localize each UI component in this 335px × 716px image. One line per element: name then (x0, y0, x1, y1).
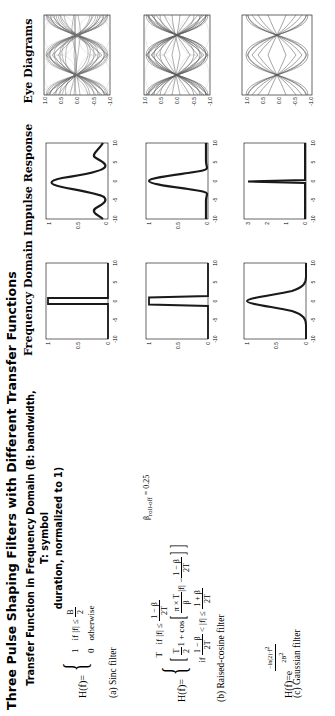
svg-text:10: 10 (212, 260, 218, 266)
figure-subtitle: Transfer Function in Frequency Domain (B… (24, 388, 66, 688)
rc-case2-abs-f-minus: |f| − (176, 578, 186, 592)
svg-text:5: 5 (212, 160, 218, 163)
svg-text:0: 0 (105, 342, 111, 345)
column-header-eye-diagrams: Eye Diagrams (22, 6, 35, 116)
svg-text:-10: -10 (310, 335, 316, 342)
rc-case2-cond-right-num: 1 + β (193, 588, 203, 609)
svg-text:0.0: 0.0 (74, 97, 80, 104)
caption-gaussian-filter: (c) Gaussian filter (292, 629, 302, 698)
svg-text:10: 10 (212, 140, 218, 146)
svg-text:5: 5 (212, 280, 218, 283)
rc-case2-pi-T: π × T (172, 592, 182, 613)
plot-eye-diagram-sinc: 1.00.50.0-0.5-1.0 (40, 11, 126, 121)
svg-text:-10: -10 (112, 215, 118, 222)
svg-text:0: 0 (310, 179, 316, 182)
svg-text:0: 0 (205, 342, 211, 345)
svg-text:1: 1 (46, 222, 52, 225)
rc-case1-frac-num: 1 − β (150, 600, 160, 621)
svg-text:0: 0 (310, 299, 316, 302)
rc-case2-one-plus-cos: 1 + cos (176, 621, 186, 647)
sinc-case2-value: 0 (85, 643, 98, 659)
formula-sinc-lhs: H(f)= (77, 675, 88, 698)
svg-text:-5: -5 (112, 318, 118, 323)
svg-text:0.5: 0.5 (75, 222, 81, 229)
svg-text:0.5: 0.5 (273, 342, 279, 349)
plot-eye-diagram-raised-cosine: 1.00.50.0-0.5-1.0 (140, 11, 226, 121)
svg-text:0: 0 (103, 222, 109, 225)
plot-frequency-domain-raised-cosine: -10-50510 00.51 (140, 256, 226, 361)
gauss-exponent-den: 2B2 (276, 644, 289, 670)
svg-text:-1.0: -1.0 (107, 97, 113, 106)
sinc-case1-frac-num: B (66, 607, 76, 616)
svg-text:-0.5: -0.5 (292, 97, 298, 106)
svg-text:1: 1 (146, 222, 152, 225)
column-header-frequency-domain: Frequency Domain (22, 246, 35, 356)
svg-text:0: 0 (212, 299, 218, 302)
plot-impulse-response-sinc: -10-50510 00.51 (40, 136, 126, 241)
rolloff-parameter-annotation: βroll-off = 0.25 (142, 475, 153, 520)
svg-text:-5: -5 (310, 318, 316, 323)
gauss-exp-num-text: −ln(2)·f (267, 650, 273, 669)
svg-text:-5: -5 (212, 318, 218, 323)
subtitle-line-2: duration, normalized to 1) (53, 467, 64, 609)
svg-text:0: 0 (112, 299, 118, 302)
plot-eye-diagram-gaussian: 1.00.50.0-0.5-1.0 (238, 11, 324, 121)
rc-case2-cond-left-fraction: 1 − β 2T (193, 634, 212, 655)
sinc-case1-value: 1 (69, 643, 82, 659)
caption-raised-cosine-filter: (b) Raised-cosine filter (216, 614, 226, 702)
plot-impulse-response-raised-cosine: -10-50510 00.51 (140, 136, 226, 241)
sinc-case1-frac-den: 2 (76, 607, 85, 616)
svg-text:10: 10 (310, 260, 316, 266)
plot-frequency-domain-sinc: -10-50510 00.51 (40, 256, 126, 361)
rc-case2-inner-fraction: 1 − β 2T (172, 557, 191, 578)
svg-text:1: 1 (146, 342, 152, 345)
gauss-exponent-fraction: −ln(2)·f2 2B2 (262, 644, 289, 670)
rc-case2-pi-T-over-beta: π × T β (172, 592, 191, 613)
figure-canvas: Three Pulse Shaping Filters with Differe… (0, 0, 335, 716)
rolloff-symbol: β (142, 516, 151, 520)
svg-text:0.0: 0.0 (276, 97, 282, 104)
svg-text:0.0: 0.0 (174, 97, 180, 104)
svg-text:1: 1 (45, 342, 51, 345)
subtitle-line-1: Transfer Function in Frequency Domain (B… (25, 390, 50, 685)
svg-text:0.5: 0.5 (175, 342, 181, 349)
svg-text:10: 10 (112, 140, 118, 146)
rc-case2-cond-right-den: 2T (203, 588, 212, 609)
plot-frequency-domain-gaussian: -10-50510 00.51 (238, 256, 324, 361)
rc-case2-beta: β (182, 592, 191, 613)
svg-text:-5: -5 (310, 198, 316, 203)
rc-case2-cond-mid: < |f| ≤ (197, 611, 207, 632)
caption-sinc-filter: (a) Sinc filter (108, 647, 118, 698)
svg-text:0.5: 0.5 (175, 222, 181, 229)
svg-text:0.5: 0.5 (260, 97, 266, 104)
rc-case1-cond: if |f| ≤ (154, 623, 164, 645)
svg-text:-0.5: -0.5 (191, 97, 197, 106)
svg-text:0.5: 0.5 (58, 97, 64, 104)
gauss-exp-den-power: 2 (277, 652, 284, 655)
page-title: Three Pulse Shaping Filters with Differe… (4, 271, 19, 710)
svg-text:-10: -10 (212, 335, 218, 342)
svg-text:0: 0 (303, 342, 309, 345)
svg-text:-1.0: -1.0 (207, 97, 213, 106)
svg-text:1.0: 1.0 (42, 97, 48, 104)
rolloff-subscript: roll-off (146, 497, 153, 516)
svg-text:1.0: 1.0 (244, 97, 250, 104)
rc-case2-T-over-2: T 2 (172, 647, 191, 656)
svg-text:-10: -10 (112, 335, 118, 342)
plot-impulse-response-gaussian: -10-50510 0123 (238, 136, 324, 241)
rc-case2-T: T (172, 647, 182, 656)
sinc-case1-fraction: B 2 (66, 607, 85, 616)
svg-text:1.0: 1.0 (142, 97, 148, 104)
gauss-exponent-num: −ln(2)·f2 (262, 644, 276, 670)
svg-text:3: 3 (245, 222, 251, 225)
svg-text:5: 5 (310, 280, 316, 283)
sinc-case2-cond: otherwise (86, 606, 96, 641)
svg-text:5: 5 (310, 160, 316, 163)
rc-case2-inner-den: 2T (182, 557, 191, 578)
rolloff-value: = 0.25 (142, 475, 151, 496)
svg-text:5: 5 (112, 160, 118, 163)
svg-text:1: 1 (283, 222, 289, 225)
gauss-exp-num-power: 2 (263, 646, 270, 649)
svg-text:0: 0 (302, 222, 308, 225)
sinc-case1-cond: if |f| ≤ (70, 619, 80, 641)
